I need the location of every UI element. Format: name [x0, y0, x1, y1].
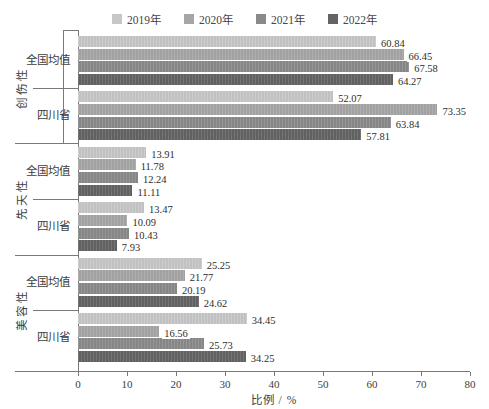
x-axis-title: 比例 / %	[78, 391, 470, 407]
bar-group-美容性-四川省: 34.4516.5625.7334.25	[78, 313, 470, 362]
bar-value-label: 63.84	[394, 119, 422, 130]
x-tick-mark	[78, 372, 79, 376]
bar-value-label: 12.24	[141, 174, 169, 185]
bar-value-label: 21.77	[188, 272, 216, 283]
subgroup-label: 四川省	[0, 313, 73, 362]
bar-2019年	[78, 91, 333, 102]
legend: 2019年2020年2021年2022年	[0, 11, 489, 27]
bar-value-label: 25.73	[207, 340, 235, 351]
bar-value-label: 24.62	[202, 298, 230, 309]
x-tick-mark	[470, 372, 471, 376]
bar-row: 7.93	[78, 240, 470, 251]
bar-row: 25.73	[78, 338, 470, 349]
bar-row: 21.77	[78, 270, 470, 281]
bar-2019年	[78, 147, 146, 158]
bar-2019年	[78, 258, 202, 269]
bar-2020年	[78, 104, 437, 115]
x-axis-line	[15, 371, 470, 372]
bar-row: 60.84	[78, 36, 470, 47]
bar-row: 10.43	[78, 228, 470, 239]
major-category-label: 先天性	[13, 178, 29, 220]
bar-row: 13.47	[78, 202, 470, 213]
bar-2021年	[78, 283, 177, 294]
bar-2022年	[78, 240, 117, 251]
bar-group-先天性-全国均值: 13.9111.7812.2411.11	[78, 147, 470, 196]
bar-2019年	[78, 202, 144, 213]
bar-2021年	[78, 172, 138, 183]
bar-value-label: 66.45	[407, 51, 435, 62]
bar-value-label: 25.25	[205, 260, 233, 271]
x-tick-label: 70	[403, 378, 439, 390]
subgroup-label: 全国均值	[0, 36, 73, 85]
major-category-divider	[15, 143, 78, 144]
bar-value-label: 57.81	[364, 131, 392, 142]
subgroup-label: 全国均值	[0, 258, 73, 307]
bar-2022年	[78, 351, 246, 362]
major-category-divider	[15, 255, 78, 256]
subgroup-divider	[33, 199, 78, 200]
bar-row: 20.19	[78, 283, 470, 294]
bar-value-label: 67.58	[412, 63, 440, 74]
x-tick-label: 20	[158, 378, 194, 390]
bar-value-label: 52.07	[336, 93, 364, 104]
x-tick-mark	[176, 372, 177, 376]
legend-swatch-icon	[256, 14, 266, 24]
bar-2021年	[78, 338, 204, 349]
bar-value-label: 20.19	[180, 285, 208, 296]
category-axis-top-tick	[63, 30, 78, 31]
bar-2021年	[78, 228, 129, 239]
bar-row: 24.62	[78, 296, 470, 307]
bar-row: 34.25	[78, 351, 470, 362]
x-tick-mark	[225, 372, 226, 376]
x-tick-label: 60	[354, 378, 390, 390]
x-tick-mark	[372, 372, 373, 376]
bar-value-label: 11.78	[139, 161, 166, 172]
bar-value-label: 64.27	[396, 76, 424, 87]
bar-2021年	[78, 61, 409, 72]
major-category-label: 创伤性	[13, 67, 29, 109]
bar-row: 25.25	[78, 258, 470, 269]
bar-row: 13.91	[78, 147, 470, 158]
bar-row: 57.81	[78, 129, 470, 140]
x-tick-mark	[274, 372, 275, 376]
bar-value-label: 11.11	[135, 187, 162, 198]
bar-row: 67.58	[78, 61, 470, 72]
subgroup-label: 四川省	[0, 91, 73, 140]
bar-value-label: 73.35	[440, 106, 468, 117]
bar-value-label: 34.25	[249, 353, 277, 364]
bar-chart: 2019年2020年2021年2022年 60.8466.4567.5864.2…	[0, 0, 489, 409]
bar-2022年	[78, 296, 199, 307]
bar-2019年	[78, 36, 376, 47]
bar-row: 12.24	[78, 172, 470, 183]
legend-item: 2021年	[256, 11, 305, 27]
bar-2021年	[78, 117, 391, 128]
legend-swatch-icon	[112, 14, 122, 24]
legend-swatch-icon	[328, 14, 338, 24]
bar-2020年	[78, 270, 185, 281]
bar-group-先天性-四川省: 13.4710.0910.437.93	[78, 202, 470, 251]
bar-value-label: 13.47	[147, 204, 175, 215]
bar-value-label: 60.84	[379, 38, 407, 49]
bar-2020年	[78, 326, 159, 337]
bar-2020年	[78, 49, 404, 60]
x-tick-label: 0	[60, 378, 96, 390]
legend-label: 2021年	[271, 11, 305, 27]
plot-area: 60.8466.4567.5864.2752.0773.3563.8457.81…	[78, 30, 470, 371]
bar-row: 64.27	[78, 74, 470, 85]
legend-swatch-icon	[184, 14, 194, 24]
subgroup-divider	[33, 88, 78, 89]
x-tick-mark	[421, 372, 422, 376]
bar-group-创伤性-四川省: 52.0773.3563.8457.81	[78, 91, 470, 140]
legend-item: 2022年	[328, 11, 377, 27]
bar-2020年	[78, 159, 136, 170]
bar-value-label: 13.91	[149, 149, 177, 160]
bar-group-美容性-全国均值: 25.2521.7720.1924.62	[78, 258, 470, 307]
legend-item: 2019年	[112, 11, 161, 27]
bar-row: 52.07	[78, 91, 470, 102]
bar-2022年	[78, 185, 132, 196]
x-tick-label: 30	[207, 378, 243, 390]
bar-row: 34.45	[78, 313, 470, 324]
bar-group-创伤性-全国均值: 60.8466.4567.5864.27	[78, 36, 470, 85]
bar-2020年	[78, 215, 127, 226]
x-tick-label: 50	[305, 378, 341, 390]
